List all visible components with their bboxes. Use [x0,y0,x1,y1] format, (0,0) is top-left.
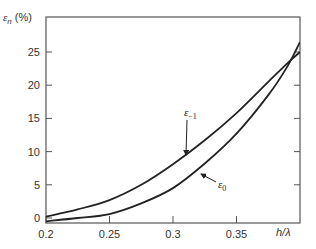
y-tick-label: 15 [28,112,40,124]
series-eps-minus1-line [46,52,300,217]
plot-frame [46,17,300,223]
series-eps0-line [46,42,300,221]
x-tick-label: 0.35 [226,228,247,240]
series-label-eps0: ε0 [218,178,226,193]
x-tick-label: 0.2 [38,228,53,240]
y-axis-ticks: 0510152025 [28,46,300,224]
y-tick-label: 20 [28,79,40,91]
line-chart: 0510152025 0.20.250.30.35 ε−1ε0 εn (%) h… [0,0,316,249]
y-tick-label: 10 [28,146,40,158]
series-curves [46,42,300,221]
y-tick-label: 5 [34,179,40,191]
plot-border [46,17,300,223]
x-tick-label: 0.25 [99,228,120,240]
x-tick-label: 0.3 [165,228,180,240]
arrow-eps-minus1 [186,120,187,155]
y-tick-label: 25 [28,46,40,58]
y-axis-label: εn (%) [3,11,32,26]
series-label-eps-minus1: ε−1 [184,106,197,121]
x-axis-label: h/λ [276,226,291,238]
y-tick-label: 0 [34,212,40,224]
arrow-eps0 [201,174,216,182]
